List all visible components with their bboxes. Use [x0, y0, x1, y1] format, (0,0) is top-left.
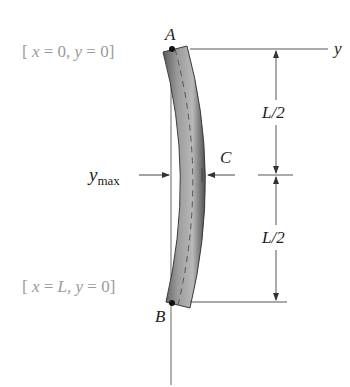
ymax-label: ymax — [87, 164, 120, 188]
label-point-b: B — [155, 307, 166, 326]
bc-top-yval: 0 — [100, 42, 109, 61]
bc-bottom-yval: 0 — [101, 277, 110, 296]
bc-bottom-eq1: = — [44, 277, 54, 296]
bc-bottom-open: [ — [22, 277, 28, 296]
dimension-label-lower: L/2 — [261, 228, 285, 247]
bc-top-open: [ — [22, 42, 28, 61]
bc-bottom-xval: L, — [57, 277, 72, 296]
bc-bottom-eq2: = — [87, 277, 97, 296]
bc-top-eq1: = — [44, 42, 54, 61]
label-point-c: C — [220, 148, 232, 167]
label-y-axis: y — [332, 39, 342, 58]
bc-top-xval: 0, — [58, 42, 71, 61]
bc-top-close: ] — [109, 42, 115, 61]
bc-bottom-y: y — [74, 277, 84, 296]
label-point-a: A — [164, 25, 176, 44]
boundary-condition-top: [ x = 0, y = 0] — [22, 42, 114, 61]
beam-deflection-diagram: A B C y L/2 L/2 ymax [ x = 0, y = 0] [ x… — [0, 0, 350, 387]
bc-bottom-close: ] — [110, 277, 116, 296]
bc-top-eq2: = — [86, 42, 96, 61]
support-point-a — [169, 46, 175, 52]
support-point-b — [169, 300, 175, 306]
dimension-label-upper: L/2 — [261, 103, 285, 122]
bc-bottom-x: x — [31, 277, 40, 296]
bc-top-x: x — [31, 42, 40, 61]
deflected-beam — [163, 46, 205, 308]
boundary-condition-bottom: [ x = L, y = 0] — [22, 277, 115, 296]
ymax-symbol: y — [87, 164, 98, 185]
ymax-subscript: max — [97, 173, 120, 188]
bc-top-y: y — [73, 42, 83, 61]
